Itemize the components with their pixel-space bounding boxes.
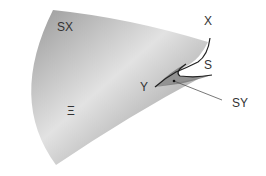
point-dot [173, 80, 176, 83]
label-y: Y [140, 80, 148, 94]
label-xi: Ξ [67, 104, 75, 118]
label-sx: SX [57, 20, 73, 34]
label-sy: SY [232, 96, 248, 110]
pointer-sy [174, 81, 222, 100]
label-x: X [204, 14, 212, 28]
surface-diagram [0, 0, 266, 176]
label-s: S [204, 58, 212, 72]
